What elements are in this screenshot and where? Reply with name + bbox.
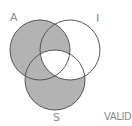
label-s: S	[53, 112, 60, 123]
verdict-label: VALID	[104, 112, 131, 122]
label-i: I	[96, 13, 99, 24]
label-a: A	[10, 12, 17, 23]
venn-diagram	[0, 0, 132, 126]
